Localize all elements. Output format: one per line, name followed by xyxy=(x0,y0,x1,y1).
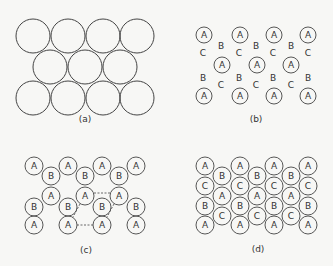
site-letter-c: C xyxy=(270,48,276,58)
panel-b-layer-with-sites: AAAAAAAAAAABBBCCCCBBBBCCC xyxy=(196,27,316,104)
sphere-letter-a: A xyxy=(271,220,278,230)
sphere-letter-a: A xyxy=(288,60,295,70)
sphere-letter-c: C xyxy=(271,181,277,191)
site-letter-b: B xyxy=(270,73,276,83)
sphere-atom xyxy=(86,81,120,115)
site-letter-b: B xyxy=(288,41,294,51)
sphere-atom xyxy=(68,50,102,84)
sphere-letter-a: A xyxy=(305,220,312,230)
site-letter-c: C xyxy=(288,80,294,90)
site-letter-c: C xyxy=(253,80,259,90)
sphere-letter-a: A xyxy=(201,30,208,40)
sphere-letter-b: B xyxy=(82,171,88,181)
sphere-letter-b: B xyxy=(271,201,277,211)
sphere-letter-a: A xyxy=(116,191,123,201)
sphere-letter-a: A xyxy=(219,191,226,201)
sphere-letter-a: A xyxy=(48,191,55,201)
sphere-atom xyxy=(120,19,154,53)
sphere-letter-a: A xyxy=(202,161,209,171)
sphere-letter-a: A xyxy=(31,220,38,230)
sphere-letter-b: B xyxy=(133,202,139,212)
sphere-letter-a: A xyxy=(305,30,312,40)
sphere-letter-a: A xyxy=(133,220,140,230)
sphere-letter-c: C xyxy=(254,211,260,221)
sphere-letter-b: B xyxy=(202,201,208,211)
sphere-letter-b: B xyxy=(219,171,225,181)
sphere-letter-a: A xyxy=(254,191,261,201)
sphere-letter-a: A xyxy=(219,60,226,70)
figure-canvas: AAAAAAAAAAABBBCCCCBBBBCCC AAAABBBAAABBBB… xyxy=(0,0,333,266)
sphere-letter-c: C xyxy=(288,211,294,221)
site-letter-b: B xyxy=(236,73,242,83)
panel-c-ab-stacking: AAAABBBAAABBBBAAAA xyxy=(25,157,145,234)
sphere-letter-a: A xyxy=(65,220,72,230)
sphere-letter-a: A xyxy=(99,220,106,230)
panel-label-d: (d) xyxy=(252,244,265,254)
sphere-letter-a: A xyxy=(237,30,244,40)
sphere-letter-b: B xyxy=(99,202,105,212)
sphere-letter-b: B xyxy=(31,202,37,212)
sphere-atom xyxy=(120,81,154,115)
sphere-letter-a: A xyxy=(133,161,140,171)
sphere-atom xyxy=(16,19,50,53)
sphere-letter-c: C xyxy=(305,181,311,191)
sphere-letter-a: A xyxy=(31,161,38,171)
sphere-letter-a: A xyxy=(271,30,278,40)
site-letter-c: C xyxy=(218,80,224,90)
sphere-atom xyxy=(86,19,120,53)
site-letter-b: B xyxy=(305,73,311,83)
site-letter-c: C xyxy=(200,48,206,58)
sphere-atom xyxy=(16,81,50,115)
sphere-letter-b: B xyxy=(65,202,71,212)
sphere-letter-a: A xyxy=(305,91,312,101)
sphere-letter-a: A xyxy=(237,161,244,171)
sphere-letter-b: B xyxy=(237,201,243,211)
site-letter-c: C xyxy=(236,48,242,58)
sphere-letter-a: A xyxy=(271,161,278,171)
sphere-letter-b: B xyxy=(254,171,260,181)
sphere-letter-a: A xyxy=(201,91,208,101)
sphere-letter-a: A xyxy=(271,91,278,101)
sphere-letter-a: A xyxy=(202,220,209,230)
site-letter-b: B xyxy=(253,41,259,51)
sphere-letter-c: C xyxy=(237,181,243,191)
sphere-letter-a: A xyxy=(65,161,72,171)
sphere-letter-b: B xyxy=(288,171,294,181)
panel-label-b: (b) xyxy=(250,114,263,124)
close-packing-figure: AAAAAAAAAAABBBCCCCBBBBCCC AAAABBBAAABBBB… xyxy=(0,0,333,266)
panel-d-abc-stacking: ACBABACACBABACACBABACACBA xyxy=(196,157,317,234)
sphere-atom xyxy=(51,81,85,115)
sphere-letter-a: A xyxy=(99,161,106,171)
sphere-letter-a: A xyxy=(237,220,244,230)
sphere-letter-b: B xyxy=(116,171,122,181)
panel-a-single-layer xyxy=(16,19,154,115)
sphere-letter-c: C xyxy=(219,211,225,221)
panel-label-c: (c) xyxy=(80,245,92,255)
sphere-letter-a: A xyxy=(254,60,261,70)
sphere-letter-c: C xyxy=(202,181,208,191)
sphere-letter-a: A xyxy=(82,191,89,201)
site-letter-c: C xyxy=(305,48,311,58)
panel-label-a: (a) xyxy=(79,114,92,124)
sphere-letter-a: A xyxy=(237,91,244,101)
site-letter-b: B xyxy=(218,41,224,51)
sphere-letter-a: A xyxy=(288,191,295,201)
sphere-letter-b: B xyxy=(305,201,311,211)
site-letter-b: B xyxy=(200,73,206,83)
sphere-atom xyxy=(33,50,67,84)
sphere-atom xyxy=(51,19,85,53)
sphere-letter-a: A xyxy=(305,161,312,171)
sphere-letter-b: B xyxy=(48,171,54,181)
sphere-atom xyxy=(103,50,137,84)
